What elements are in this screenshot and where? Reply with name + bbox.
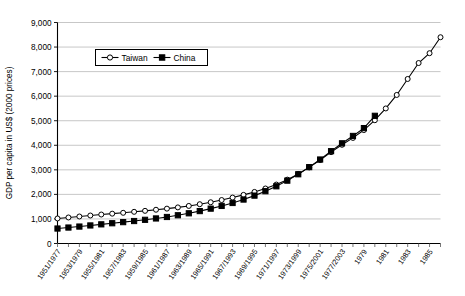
data-point-taiwan [405,76,410,81]
data-point-taiwan [208,200,213,205]
data-point-taiwan [164,206,169,211]
y-tick-label: 4,000 [31,141,52,150]
x-tick-label: 1983 [396,247,413,266]
chart-legend: TaiwanChina [96,50,208,66]
data-point-taiwan [394,92,399,97]
data-point-taiwan [77,214,82,219]
data-point-china [132,218,137,223]
x-axis-tick-labels: 1951/19771953/19791955/19811957/19831959… [35,247,434,281]
data-point-taiwan [55,216,60,221]
legend-label-china: China [174,53,196,63]
data-point-china [153,216,158,221]
x-tick-label: 1979 [352,247,369,266]
data-point-china [230,200,235,205]
data-point-china [252,193,257,198]
data-point-taiwan [438,35,443,40]
data-point-china [307,165,312,170]
data-point-china [350,133,355,138]
data-point-china [241,197,246,202]
data-point-taiwan [99,212,104,217]
chart-container: 01,0002,0003,0004,0005,0006,0007,0008,00… [0,0,465,296]
data-point-china [197,208,202,213]
data-point-china [110,221,115,226]
gdp-per-capita-line-chart: 01,0002,0003,0004,0005,0006,0007,0008,00… [0,0,465,296]
series-line-china [58,116,375,229]
data-point-taiwan [153,207,158,212]
y-tick-label: 7,000 [31,68,52,77]
data-point-taiwan [132,209,137,214]
y-tick-label: 6,000 [31,92,52,101]
data-point-china [318,157,323,162]
y-axis-tick-labels: 01,0002,0003,0004,0005,0006,0007,0008,00… [31,19,52,249]
data-point-china [328,149,333,154]
data-point-taiwan [66,215,71,220]
data-point-taiwan [427,51,432,56]
data-point-taiwan [110,211,115,216]
data-point-china [77,224,82,229]
data-point-china [219,203,224,208]
data-point-china [121,220,126,225]
y-tick-label: 5,000 [31,117,52,126]
y-tick-label: 8,000 [31,43,52,52]
data-point-taiwan [416,61,421,66]
y-tick-label: 2,000 [31,190,52,199]
data-point-china [296,172,301,177]
data-point-china [66,225,71,230]
data-point-taiwan [121,210,126,215]
y-tick-label: 3,000 [31,166,52,175]
data-point-china [285,178,290,183]
y-tick-label: 9,000 [31,19,52,28]
data-point-taiwan [383,106,388,111]
y-axis-title: GDP per capita in US$ (2000 prices) [5,66,14,199]
data-point-china [88,223,93,228]
legend-marker-taiwan [107,55,112,60]
data-point-taiwan [197,202,202,207]
data-point-china [361,125,366,130]
data-point-china [339,141,344,146]
data-point-china [274,184,279,189]
data-point-china [186,211,191,216]
data-point-china [208,206,213,211]
data-point-china [142,217,147,222]
data-point-china [175,213,180,218]
data-point-china [99,222,104,227]
data-point-china [372,113,377,118]
x-tick-label: 1981 [374,247,391,266]
data-point-china [164,214,169,219]
data-point-taiwan [175,205,180,210]
data-point-china [55,226,60,231]
x-tick-label: 1985 [418,247,435,266]
data-point-taiwan [230,195,235,200]
legend-marker-china [159,55,164,60]
data-point-taiwan [143,208,148,213]
data-point-taiwan [186,203,191,208]
data-point-taiwan [219,198,224,203]
y-tick-label: 1,000 [31,215,52,224]
data-point-china [263,189,268,194]
legend-label-taiwan: Taiwan [122,53,148,63]
y-tick-label: 0 [47,240,52,249]
data-point-taiwan [88,213,93,218]
